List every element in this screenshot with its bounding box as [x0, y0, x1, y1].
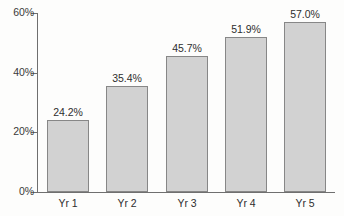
bar-value-label: 57.0%: [290, 8, 319, 20]
y-axis-tick-label: 40%: [13, 66, 34, 78]
bar-value-label: 45.7%: [172, 42, 201, 54]
x-axis-line: [37, 192, 335, 193]
bar: [106, 86, 148, 192]
y-axis-line: [37, 13, 38, 193]
bar-item: 45.7%Yr 3: [166, 56, 208, 192]
y-axis-tick-label: 60%: [13, 6, 34, 18]
y-axis-tick-label: 0%: [19, 185, 34, 197]
bar: [47, 120, 89, 192]
bar-value-label: 24.2%: [53, 106, 82, 118]
bar-chart: 0%20%40%60% 24.2%Yr 135.4%Yr 245.7%Yr 35…: [0, 0, 344, 216]
bar-item: 24.2%Yr 1: [47, 120, 89, 192]
bar-value-label: 51.9%: [231, 23, 260, 35]
bar-value-label: 35.4%: [112, 72, 141, 84]
bar: [166, 56, 208, 192]
bar-item: 51.9%Yr 4: [225, 37, 267, 192]
bar-item: 57.0%Yr 5: [284, 22, 326, 192]
scan-edge: [0, 208, 344, 216]
y-axis-tick-label: 20%: [13, 125, 34, 137]
bar: [225, 37, 267, 192]
bar: [284, 22, 326, 192]
bar-item: 35.4%Yr 2: [106, 86, 148, 192]
